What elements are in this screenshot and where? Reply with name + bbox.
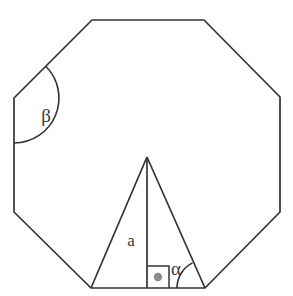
side-label-a: a	[127, 231, 135, 250]
beta-angle-arc-icon	[14, 66, 59, 143]
geometry-diagram: a α β	[0, 0, 293, 296]
geometry-canvas: a α β	[0, 0, 293, 296]
angle-label-alpha: α	[171, 258, 181, 279]
right-angle-dot-icon	[154, 273, 162, 281]
triangle-left-leg	[91, 157, 147, 288]
angle-label-beta: β	[41, 105, 51, 126]
